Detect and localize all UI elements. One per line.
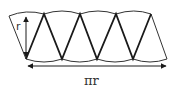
- width-label: πr: [84, 74, 99, 87]
- radius-label: r: [16, 21, 21, 32]
- sector-zigzag: [26, 14, 151, 59]
